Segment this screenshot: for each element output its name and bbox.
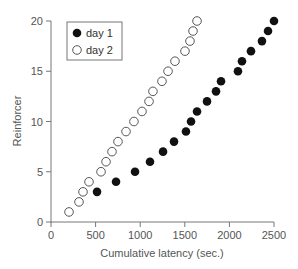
x-axis-title: Cumulative latency (sec.) [100, 247, 224, 259]
filled-circle-point [131, 167, 140, 176]
open-circle-point [145, 97, 154, 106]
filled-circle-point [212, 87, 221, 96]
filled-circle-point [270, 17, 279, 26]
x-tick-label: 1000 [128, 229, 152, 241]
open-circle-point [108, 147, 117, 156]
x-tick-label: 2000 [217, 229, 241, 241]
open-circle-point [65, 208, 74, 217]
open-circle-point [79, 188, 88, 197]
open-circle-point [102, 157, 111, 166]
filled-circle-point [187, 117, 196, 126]
filled-circle-point [170, 137, 179, 146]
open-circle-point [138, 107, 147, 116]
x-axis: 05001000150020002500 [48, 222, 286, 241]
legend: day 1 day 2 [67, 22, 122, 60]
filled-circle-point [159, 147, 168, 156]
legend-label-day-1: day 1 [86, 27, 113, 39]
open-circle-point [114, 137, 123, 146]
filled-circle-point [193, 107, 202, 116]
open-circle-point [164, 67, 173, 76]
filled-circle-point [182, 127, 191, 136]
scatter-chart: 05001000150020002500 05101520 Cumulative… [0, 0, 298, 269]
open-circle-point [158, 77, 167, 86]
y-tick-label: 15 [31, 65, 43, 77]
y-tick-label: 10 [31, 116, 43, 128]
filled-circle-point [234, 67, 243, 76]
open-circle-point [186, 37, 195, 46]
open-circle-point [75, 198, 84, 207]
x-tick-label: 0 [48, 229, 54, 241]
filled-circle-point [217, 77, 226, 86]
filled-circle-point [203, 97, 212, 106]
x-tick-label: 1500 [173, 229, 197, 241]
filled-circle-point [264, 27, 273, 36]
filled-circle-icon [73, 29, 82, 38]
open-circle-point [189, 27, 198, 36]
open-circle-icon [73, 46, 82, 55]
open-circle-point [85, 178, 94, 187]
y-axis: 05101520 [31, 15, 51, 228]
y-tick-label: 5 [37, 166, 43, 178]
open-circle-point [149, 87, 158, 96]
filled-circle-point [247, 47, 256, 56]
filled-circle-point [238, 57, 247, 66]
filled-circle-point [93, 188, 102, 197]
open-circle-point [130, 117, 139, 126]
legend-label-day-2: day 2 [86, 44, 113, 56]
open-circle-point [122, 127, 131, 136]
filled-circle-point [146, 157, 155, 166]
open-circle-point [193, 17, 202, 26]
x-tick-label: 2500 [262, 229, 286, 241]
y-tick-label: 0 [37, 216, 43, 228]
x-tick-label: 500 [86, 229, 104, 241]
y-axis-title: Reinforcer [11, 95, 23, 146]
filled-circle-point [258, 37, 267, 46]
open-circle-point [181, 47, 190, 56]
open-circle-point [171, 57, 180, 66]
open-circle-point [97, 167, 106, 176]
filled-circle-point [112, 178, 121, 187]
y-tick-label: 20 [31, 15, 43, 27]
